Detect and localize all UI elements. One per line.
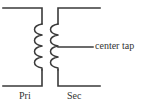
primary-bottom-lead-line: [3, 70, 42, 86]
primary-side: [3, 8, 42, 86]
center-tap-label: center tap: [95, 40, 134, 51]
primary-top-lead-line: [3, 8, 42, 24]
primary-winding-label: Pri: [19, 90, 31, 101]
transformer-diagram-canvas: Pri Sec center tap: [0, 0, 141, 110]
secondary-top-lead-line: [58, 8, 100, 24]
secondary-winding-label: Sec: [67, 90, 81, 101]
primary-coil-winding: [35, 24, 43, 70]
secondary-coil-winding: [51, 24, 59, 70]
secondary-bottom-lead-line: [58, 70, 100, 86]
